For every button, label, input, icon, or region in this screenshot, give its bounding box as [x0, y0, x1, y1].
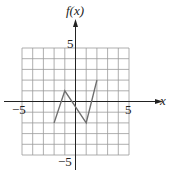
y-axis-arrow-icon	[73, 19, 78, 27]
y-axis-label: f(x)	[66, 4, 84, 17]
x-min-tick-label: −5	[12, 103, 26, 116]
y-max-tick-label: 5	[67, 37, 74, 50]
x-axis-label: x	[160, 94, 166, 107]
chart-canvas	[0, 0, 172, 173]
x-max-tick-label: 5	[125, 103, 132, 116]
y-min-tick-label: −5	[58, 155, 72, 168]
